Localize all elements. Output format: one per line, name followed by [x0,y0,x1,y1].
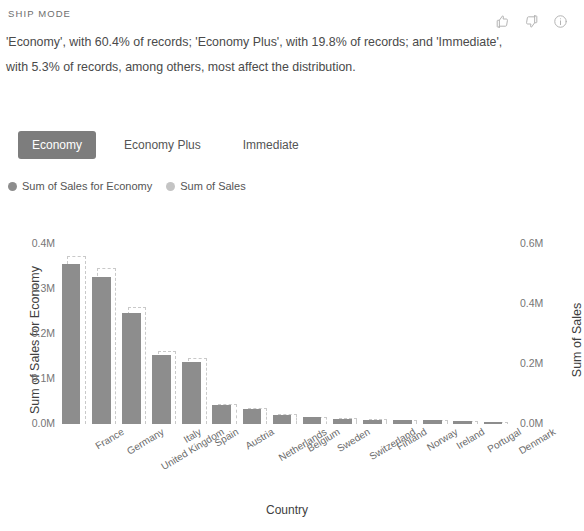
x-tick-label: Ireland [455,426,487,451]
feedback-actions [495,14,568,29]
bar-group[interactable] [297,221,327,424]
y-tick-left-3: 0.3M [32,282,55,294]
bar-group[interactable] [327,221,357,424]
y-tick-right-0: 0.0M [520,417,543,429]
sales-by-country-chart: Sum of Sales for Economy Sum of Sales Co… [0,205,574,531]
bar-primary [363,420,382,425]
bar-group[interactable] [237,221,267,424]
bar-primary [484,422,503,424]
tab-economy[interactable]: Economy [18,131,96,159]
y-tick-right-1: 0.2M [520,357,543,369]
bar-primary [303,417,322,424]
bar-group[interactable] [177,221,207,424]
y-tick-right-3: 0.6M [520,237,543,249]
thumbs-down-icon[interactable] [524,14,539,29]
legend-label-secondary: Sum of Sales [180,180,245,192]
bar-group[interactable] [448,221,478,424]
x-tick-label: Germany [125,426,166,457]
y-tick-left-0: 0.0M [32,417,55,429]
plot-area [56,221,508,424]
info-icon[interactable] [553,14,568,29]
bar-group[interactable] [418,221,448,424]
y-tick-right-2: 0.4M [520,297,543,309]
legend-label-primary: Sum of Sales for Economy [22,180,152,192]
bar-primary [273,415,292,424]
bar-primary [393,420,412,424]
thumbs-up-icon[interactable] [495,14,510,29]
ship-mode-tabs: Economy Economy Plus Immediate [18,131,313,159]
legend-item-sum-of-sales-for-economy[interactable]: Sum of Sales for Economy [8,180,152,192]
bar-primary [152,355,171,424]
bar-primary [212,405,231,424]
legend-swatch-secondary [166,182,175,191]
bar-group[interactable] [387,221,417,424]
bar-primary [423,420,442,424]
chart-legend: Sum of Sales for Economy Sum of Sales [8,180,246,192]
tab-economy-plus[interactable]: Economy Plus [110,131,215,159]
panel-header: SHIP MODE 'Economy', with 60.4% of recor… [0,0,574,118]
bar-group[interactable] [267,221,297,424]
bar-primary [453,421,472,424]
bar-group[interactable] [357,221,387,424]
legend-swatch-primary [8,182,17,191]
bar-primary [122,313,141,424]
legend-item-sum-of-sales[interactable]: Sum of Sales [166,180,245,192]
bar-primary [92,277,111,424]
bar-group[interactable] [86,221,116,424]
x-tick-label: Sweden [335,426,372,454]
bar-primary [333,419,352,424]
x-tick-label: Norway [425,426,460,453]
x-axis-title: Country [0,503,574,517]
y-tick-left-1: 0.1M [32,372,55,384]
bar-primary [243,409,262,424]
x-tick-label: Denmark [516,426,556,456]
y-tick-left-4: 0.4M [32,237,55,249]
y-axis-title-left: Sum of Sales for Economy [28,235,42,445]
x-tick-label: Austria [244,426,276,451]
bar-group[interactable] [207,221,237,424]
insight-summary-text: 'Economy', with 60.4% of records; 'Econo… [6,30,526,80]
y-axis-title-right: Sum of Sales [570,235,584,445]
x-tick-label: Portugal [486,426,524,455]
bar-group[interactable] [146,221,176,424]
tab-immediate[interactable]: Immediate [229,131,313,159]
bar-primary [62,264,81,424]
y-tick-left-2: 0.2M [32,327,55,339]
bar-group[interactable] [56,221,86,424]
x-axis-tick-labels: FranceGermanyUnited KingdomItalySpainAus… [56,426,508,504]
bar-group[interactable] [116,221,146,424]
x-tick-label: France [93,426,125,451]
bar-primary [182,362,201,424]
page-title: SHIP MODE [8,8,71,19]
bar-group[interactable] [478,221,508,424]
